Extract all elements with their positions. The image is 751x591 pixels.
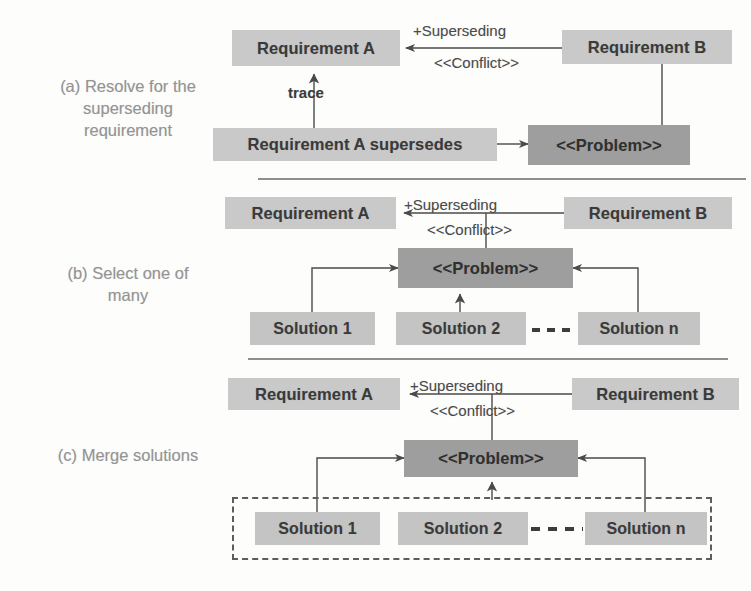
section-caption-b-line2: many xyxy=(22,285,234,307)
edge-label-superseding-c: +Superseding xyxy=(410,377,503,394)
node-requirement-a-section-c[interactable]: Requirement A xyxy=(228,378,400,410)
node-solution-n-section-c[interactable]: Solution n xyxy=(585,512,707,545)
section-caption-c: (c) Merge solutions xyxy=(22,445,234,467)
node-requirement-b-section-b[interactable]: Requirement B xyxy=(564,197,732,229)
node-problem-section-c[interactable]: <<Problem>> xyxy=(404,440,578,477)
node-solution-n-section-b[interactable]: Solution n xyxy=(578,312,700,345)
section-caption-a-line1: (a) Resolve for the xyxy=(22,76,234,98)
node-requirement-a-supersedes[interactable]: Requirement A supersedes xyxy=(213,128,497,161)
edge-label-superseding-b: +Superseding xyxy=(404,196,497,213)
diagram-canvas: (a) Resolve for the superseding requirem… xyxy=(0,0,751,591)
section-caption-a: (a) Resolve for the superseding requirem… xyxy=(22,76,234,141)
section-caption-c-line1: (c) Merge solutions xyxy=(22,445,234,467)
edge-label-superseding-a: +Superseding xyxy=(413,22,506,39)
node-requirement-b-section-c[interactable]: Requirement B xyxy=(572,378,739,410)
edge-label-conflict-b: <<Conflict>> xyxy=(427,221,512,238)
node-requirement-a-section-b[interactable]: Requirement A xyxy=(225,197,396,229)
section-caption-a-line3: requirement xyxy=(22,120,234,142)
node-requirement-b-section-a[interactable]: Requirement B xyxy=(562,30,732,64)
node-requirement-a-section-a[interactable]: Requirement A xyxy=(232,30,400,66)
node-solution-2-section-b[interactable]: Solution 2 xyxy=(396,312,526,345)
edge-label-conflict-c: <<Conflict>> xyxy=(430,402,515,419)
edge-solution1-to-problem-b xyxy=(312,268,398,312)
edge-label-trace-a: trace xyxy=(288,84,324,101)
section-divider-a-b xyxy=(258,178,746,180)
node-problem-section-a[interactable]: <<Problem>> xyxy=(528,125,690,165)
section-caption-b: (b) Select one of many xyxy=(22,263,234,307)
node-solution-1-section-c[interactable]: Solution 1 xyxy=(255,512,380,545)
section-caption-a-line2: superseding xyxy=(22,98,234,120)
edge-solutionn-to-problem-b xyxy=(573,268,638,312)
node-solution-1-section-b[interactable]: Solution 1 xyxy=(250,312,375,345)
section-caption-b-line1: (b) Select one of xyxy=(22,263,234,285)
node-solution-2-section-c[interactable]: Solution 2 xyxy=(398,512,528,545)
section-divider-b-c xyxy=(248,358,728,360)
edge-label-conflict-a: <<Conflict>> xyxy=(434,54,519,71)
node-problem-section-b[interactable]: <<Problem>> xyxy=(398,248,573,288)
